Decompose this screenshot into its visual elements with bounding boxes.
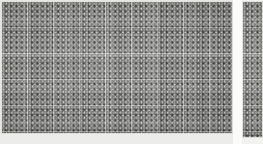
side-array-lattice: [242, 1, 263, 138]
side-cell-array: [242, 1, 263, 138]
main-cell-array: [1, 1, 233, 134]
top-edge-hairline: [0, 0, 233, 1]
micrograph-viewport: [0, 0, 263, 144]
bottom-margin: [0, 134, 233, 144]
left-edge-hairline: [0, 0, 1, 134]
panel-gap-separator: [233, 0, 242, 144]
main-array-lattice: [1, 1, 233, 134]
